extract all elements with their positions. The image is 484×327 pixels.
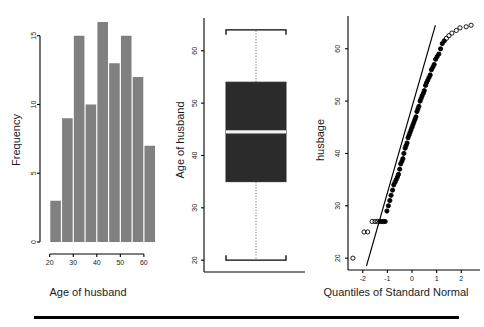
qqplot-point <box>422 89 426 93</box>
qqplot-point <box>398 167 402 171</box>
qqplot-points <box>351 23 473 260</box>
qqplot-point <box>401 157 405 161</box>
histogram-ytick-label: 5 <box>30 171 37 175</box>
qqplot-point <box>450 31 454 35</box>
histogram-bar <box>86 105 97 243</box>
qqplot-ytick-label: 60 <box>334 45 341 53</box>
histogram-ylabel: Frequency <box>10 114 22 166</box>
boxplot-ytick-label: 40 <box>191 151 198 159</box>
panel-qqplot: 2030405060-2-1012 Quantiles of Standard … <box>300 0 484 300</box>
histogram-bar <box>74 36 85 242</box>
boxplot-ytick-label: 30 <box>191 204 198 212</box>
qqplot-point <box>389 193 393 197</box>
boxplot-shapes <box>226 30 286 260</box>
histogram-xtick-label: 50 <box>116 259 124 266</box>
qqplot-point <box>396 172 400 176</box>
histogram-xtick-label: 40 <box>93 259 101 266</box>
panel-histogram: 0510152030405060 Age of husband Frequenc… <box>0 0 165 300</box>
qqplot-xtick-label: 2 <box>459 275 463 282</box>
qqplot-point <box>469 23 473 27</box>
histogram-bars <box>50 22 155 242</box>
histogram-svg: 0510152030405060 Age of husband Frequenc… <box>0 0 165 300</box>
qqplot-point <box>464 25 468 29</box>
histogram-bar <box>97 22 108 242</box>
qqplot-ytick-label: 40 <box>334 149 341 157</box>
histogram-bar <box>50 201 61 242</box>
histogram-xtick-label: 30 <box>69 259 77 266</box>
qqplot-point <box>388 198 392 202</box>
three-panel-statistical-figure: 0510152030405060 Age of husband Frequenc… <box>0 0 484 327</box>
histogram-bar <box>62 118 73 242</box>
qqplot-point <box>385 209 389 213</box>
qqplot-point <box>437 52 441 56</box>
histogram-bar <box>109 63 120 242</box>
qqplot-xtick-label: 0 <box>410 275 414 282</box>
boxplot-ylabel: Age of husband <box>174 101 186 178</box>
qqplot-point <box>405 141 409 145</box>
qqplot-point <box>417 104 421 108</box>
qqplot-point <box>402 151 406 155</box>
qqplot-ytick-label: 20 <box>334 254 341 262</box>
histogram-bar <box>133 77 144 242</box>
qqplot-point <box>438 47 442 51</box>
qqplot-ytick-label: 50 <box>334 97 341 105</box>
histogram-ytick-label: 0 <box>30 240 37 244</box>
histogram-xlabel: Age of husband <box>49 286 126 298</box>
qqplot-ylabel: husbage <box>314 119 326 161</box>
histogram-bar <box>144 146 155 242</box>
qqplot-point <box>432 62 436 66</box>
qqplot-point <box>414 115 418 119</box>
qqplot-point <box>458 26 462 30</box>
histogram-bar <box>121 36 132 242</box>
qqplot-xtick-label: 1 <box>435 275 439 282</box>
histogram-xtick-label: 20 <box>46 259 54 266</box>
qqplot-reference-line <box>366 25 435 266</box>
histogram-ytick-label: 15 <box>30 32 37 40</box>
qqplot-point <box>386 204 390 208</box>
qqplot-xlabel: Quantiles of Standard Normal <box>324 286 469 298</box>
qqplot-ytick-label: 30 <box>334 202 341 210</box>
histogram-ytick-label: 10 <box>30 101 37 109</box>
qqplot-point <box>383 219 387 223</box>
qqplot-xtick-label: -2 <box>360 275 366 282</box>
qqplot-svg: 2030405060-2-1012 Quantiles of Standard … <box>300 0 484 300</box>
qqplot-point <box>390 188 394 192</box>
boxplot-svg: 2030405060 Age of husband <box>160 0 305 300</box>
boxplot-ytick-label: 50 <box>191 99 198 107</box>
panel-boxplot: 2030405060 Age of husband <box>160 0 305 300</box>
boxplot-ytick-label: 60 <box>191 47 198 55</box>
qqplot-xtick-label: -1 <box>384 275 390 282</box>
boxplot-ytick-label: 20 <box>191 256 198 264</box>
qqplot-point <box>428 73 432 77</box>
histogram-xtick-label: 60 <box>140 259 148 266</box>
qqplot-point <box>351 256 355 260</box>
bottom-rule-divider <box>34 316 459 319</box>
